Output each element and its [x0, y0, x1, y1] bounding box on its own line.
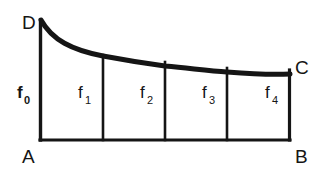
ordinate-label-f2-base: f	[140, 83, 145, 102]
ordinate-label-f1: f 1	[78, 83, 91, 106]
ordinate-label-f2: f 2	[140, 83, 153, 106]
ordinate-label-f0: f 0	[17, 83, 30, 106]
ordinate-label-f1-subscript: 1	[85, 94, 91, 106]
ordinate-label-f4-subscript: 4	[272, 94, 278, 106]
ordinate-label-f3-base: f	[202, 83, 207, 102]
ordinate-strips-diagram: D C A B f 0 f 1 f 2 f 3 f 4	[0, 0, 324, 176]
ordinate-label-f1-base: f	[78, 83, 83, 102]
vertex-label-a: A	[22, 146, 35, 167]
ordinate-label-f4: f 4	[265, 83, 278, 106]
ordinate-label-f4-base: f	[265, 83, 270, 102]
vertex-label-d: D	[22, 12, 36, 33]
ordinate-label-f3: f 3	[202, 83, 215, 106]
ordinate-label-f3-subscript: 3	[209, 94, 215, 106]
curve-dc	[41, 20, 290, 74]
vertex-label-b: B	[295, 146, 308, 167]
diagram-canvas: D C A B f 0 f 1 f 2 f 3 f 4	[0, 0, 324, 176]
vertex-label-c: C	[295, 57, 309, 78]
ordinate-label-f0-base: f	[17, 83, 23, 102]
ordinate-label-f0-subscript: 0	[24, 94, 30, 106]
ordinate-label-f2-subscript: 2	[147, 94, 153, 106]
